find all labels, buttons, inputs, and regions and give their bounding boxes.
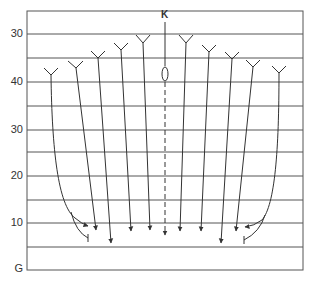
y-axis-label-ground: G <box>0 263 23 274</box>
center-axis <box>162 22 168 235</box>
diagram-canvas <box>0 0 310 284</box>
y-axis-label-4: 20 <box>0 170 23 181</box>
y-axis-label-1: 30 <box>0 28 23 39</box>
y-axis-label-3: 30 <box>0 124 23 135</box>
y-axis-label-5: 10 <box>0 217 23 228</box>
k-point-label: K <box>161 10 168 20</box>
center-ellipse-icon <box>162 67 168 81</box>
y-axis-label-2: 40 <box>0 76 23 87</box>
